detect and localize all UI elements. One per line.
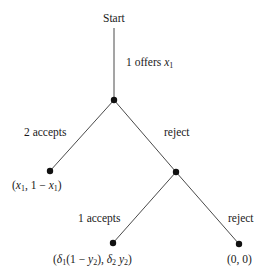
offer-label: 1 offers x1 (126, 57, 173, 69)
accept1-label: 1 accepts (78, 213, 120, 225)
terminal-node-3 (236, 241, 242, 247)
reject2-label: reject (228, 213, 254, 225)
payoff-leaf3: (0, 0) (227, 254, 252, 266)
edge-1-accepts (113, 172, 176, 243)
tree-edges (0, 0, 266, 278)
accept2-label: 2 accepts (24, 127, 66, 139)
offer-sub: 1 (169, 61, 173, 70)
edge-reject-2 (176, 172, 239, 244)
terminal-node-1 (47, 168, 53, 174)
payoff-leaf1: (x1, 1 − x1) (12, 180, 62, 192)
reject1-label: reject (164, 127, 190, 139)
terminal-node-2 (110, 240, 116, 246)
game-tree-diagram: Start 1 offers x1 2 accepts reject (x1, … (0, 0, 266, 278)
offer-prefix: 1 offers (126, 56, 164, 68)
decision-node-1 (111, 97, 117, 103)
start-label: Start (103, 13, 125, 25)
decision-node-2 (173, 169, 179, 175)
payoff-leaf2: (δ1(1 − y2), δ2 y2) (53, 254, 132, 266)
